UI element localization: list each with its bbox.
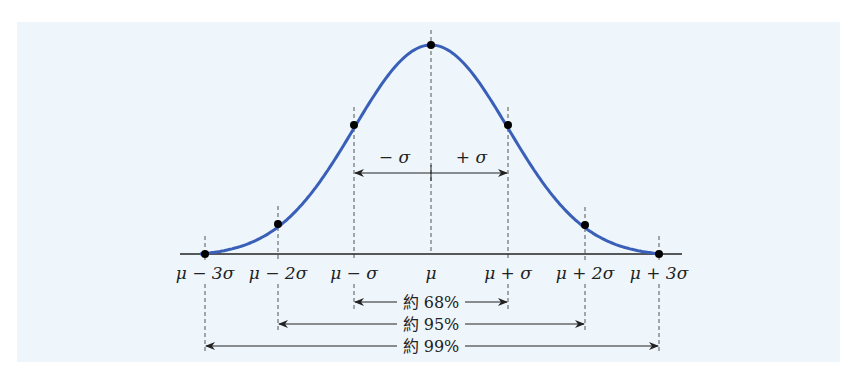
- point-mu-2sigma: [274, 220, 282, 228]
- range-label: 約 95%: [403, 315, 460, 334]
- point-mu-3sigma: [201, 250, 209, 258]
- tick-label: μ + 3σ: [630, 263, 689, 283]
- axis-tick-labels: μ − 3σμ − 2σμ − σμμ + σμ + 2σμ + 3σ: [176, 263, 689, 283]
- tick-label: μ + σ: [484, 263, 532, 283]
- tick-label: μ − 2σ: [249, 263, 308, 283]
- normal-distribution-diagram: μ − 3σμ − 2σμ − σμμ + σμ + 2σμ + 3σ − σ+…: [0, 0, 857, 379]
- point-mu-sigma: [350, 121, 358, 129]
- point-mu: [427, 41, 435, 49]
- minus-sigma-label: − σ: [379, 147, 411, 167]
- tick-label: μ + 2σ: [556, 263, 615, 283]
- plus-sigma-label: + σ: [456, 147, 488, 167]
- point-mu+2sigma: [581, 221, 589, 229]
- curve-points: [201, 41, 663, 258]
- tick-label: μ − 3σ: [176, 263, 235, 283]
- tick-label: μ − σ: [330, 263, 378, 283]
- point-mu+3sigma: [655, 250, 663, 258]
- range-label: 約 68%: [403, 293, 460, 312]
- range-label: 約 99%: [403, 337, 460, 356]
- percentage-ranges: 約 68%約 95%約 99%: [206, 293, 658, 356]
- point-mu+sigma: [504, 121, 512, 129]
- tick-label: μ: [425, 263, 436, 283]
